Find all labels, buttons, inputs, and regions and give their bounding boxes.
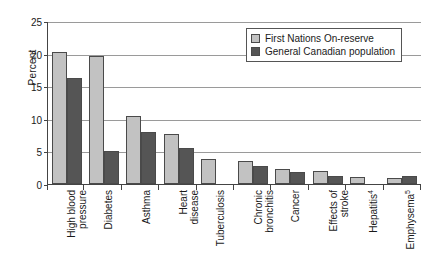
bar [126,116,141,184]
x-axis-label: Chronicbronchitis [234,190,271,273]
x-axis-label: Tuberculosis [197,190,234,273]
legend-label-0: First Nations On-reserve [265,32,374,45]
x-axis-label: Cancer [271,190,308,273]
bar [238,161,253,184]
bar [179,148,194,184]
bar [67,78,82,184]
bar-group [123,22,160,184]
x-axis-label: Hepatitis4 [346,190,383,273]
y-tick-label: 10 [2,114,48,125]
bar [402,176,417,184]
bar-group [160,22,197,184]
bar [387,178,402,184]
legend-swatch-icon [251,34,260,43]
y-tick-label: 25 [2,17,48,28]
bar [253,166,268,184]
bar [275,169,290,184]
bar-group [48,22,85,184]
x-axis-label: High bloodpressure [47,190,84,273]
bar [290,172,305,184]
y-tick-label: 5 [2,147,48,158]
legend-item-0: First Nations On-reserve [251,32,395,45]
bar [141,132,156,184]
legend-item-1: General Canadian population [251,45,395,58]
bar [328,176,343,184]
bar [201,159,216,184]
x-axis-labels: High bloodpressureDiabetesAsthmaHeartdis… [47,190,421,273]
x-axis-label: Emphysema5 [384,190,421,273]
legend-swatch-icon [251,47,260,56]
x-axis-label: Heartdisease [159,190,196,273]
y-tick-label: 20 [2,49,48,60]
x-axis-label: Effects ofstroke [309,190,346,273]
bar-chart: Percent 0510152025 High bloodpressureDia… [0,0,432,273]
bar [52,52,67,184]
chart-legend: First Nations On-reserve General Canadia… [246,28,402,62]
y-tick-label: 0 [2,180,48,191]
legend-label-1: General Canadian population [265,45,395,58]
bar [313,171,328,184]
bar [164,134,179,184]
bar [350,177,365,184]
y-tick-label: 15 [2,82,48,93]
bar [104,151,119,184]
bar-group [85,22,122,184]
x-axis-label: Asthma [122,190,159,273]
bar [89,56,104,184]
bar-group [197,22,234,184]
x-axis-label: Diabetes [84,190,121,273]
